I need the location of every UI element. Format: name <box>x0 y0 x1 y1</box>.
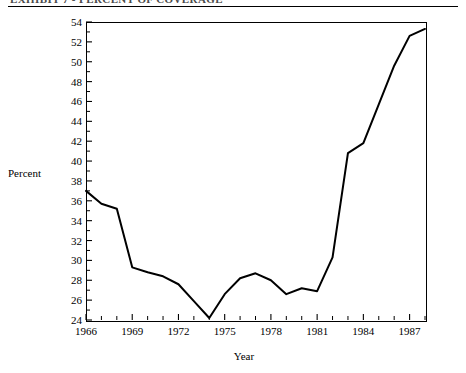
y-axis-tick-label: 30 <box>60 255 82 266</box>
x-axis-tick-label: 1981 <box>306 326 328 337</box>
y-axis-tick-label: 34 <box>60 215 82 226</box>
x-axis-tick-label: 1984 <box>352 326 374 337</box>
x-axis-tick-labels: 19661969197219751978198119841987 <box>86 326 425 340</box>
y-axis-tick-label: 26 <box>60 295 82 306</box>
y-axis-tick-label: 52 <box>60 36 82 47</box>
y-axis-tick-label: 48 <box>60 76 82 87</box>
x-axis-title: Year <box>0 350 466 362</box>
y-axis-tick-label: 50 <box>60 56 82 67</box>
y-axis-title: Percent <box>8 167 41 179</box>
plot-frame <box>86 22 427 322</box>
y-axis-tick-label: 28 <box>60 275 82 286</box>
y-axis-tick-labels: 24262830323436384042444648505254 <box>56 22 82 320</box>
y-axis-tick-label: 38 <box>60 175 82 186</box>
y-axis-tick-label: 32 <box>60 235 82 246</box>
y-axis-tick-label: 44 <box>60 116 82 127</box>
x-axis-title-text: Year <box>234 350 254 362</box>
y-axis-tick-label: 46 <box>60 96 82 107</box>
x-axis-tick-label: 1987 <box>399 326 421 337</box>
x-axis-tick-label: 1975 <box>214 326 236 337</box>
line-chart: 24262830323436384042444648505254 1966196… <box>0 0 466 373</box>
y-axis-tick-label: 24 <box>60 315 82 326</box>
y-axis-tick-label: 54 <box>60 17 82 28</box>
x-axis-tick-label: 1972 <box>167 326 189 337</box>
x-axis-tick-label: 1978 <box>260 326 282 337</box>
x-axis-tick-label: 1966 <box>75 326 97 337</box>
y-axis-tick-label: 42 <box>60 136 82 147</box>
x-axis-tick-label: 1969 <box>121 326 143 337</box>
y-axis-tick-label: 36 <box>60 195 82 206</box>
y-axis-tick-label: 40 <box>60 156 82 167</box>
